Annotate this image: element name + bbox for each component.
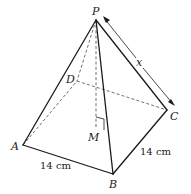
edge-PB xyxy=(96,20,113,174)
edge-AD xyxy=(23,81,77,145)
label-ab-length: 14 cm xyxy=(40,160,72,171)
arrowhead-down-icon xyxy=(168,99,175,106)
arrowhead-up-icon xyxy=(103,16,110,23)
dimension-line-upper xyxy=(104,18,136,58)
edge-DC xyxy=(77,81,167,110)
label-A: A xyxy=(10,140,19,153)
label-M: M xyxy=(87,131,100,144)
label-P: P xyxy=(91,5,100,18)
label-x: x xyxy=(136,56,143,69)
right-angle-marker-icon xyxy=(96,117,104,130)
edge-PA xyxy=(23,20,96,145)
edge-PC xyxy=(96,20,167,110)
pyramid-diagram: P D C A B M x 14 cm 14 cm xyxy=(0,0,191,194)
label-C: C xyxy=(170,110,179,123)
edge-PD xyxy=(77,20,96,81)
edge-BC xyxy=(113,110,167,174)
label-bc-length: 14 cm xyxy=(140,146,172,157)
label-B: B xyxy=(108,178,117,191)
label-D: D xyxy=(65,73,75,86)
